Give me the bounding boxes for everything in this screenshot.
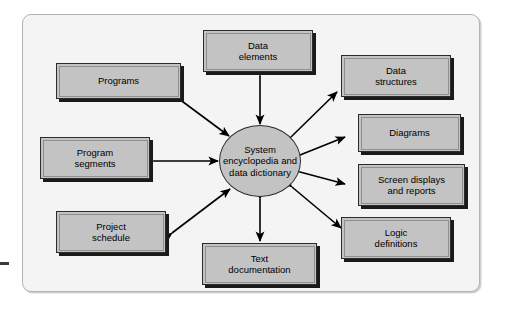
- node-logic-definitions-inner: Logic definitions: [344, 220, 449, 257]
- node-programs[interactable]: Programs: [56, 63, 181, 99]
- node-data-structures[interactable]: Data structures: [341, 55, 451, 97]
- node-program-segments-label-line1: Program: [74, 147, 115, 158]
- node-diagrams-label: Diagrams: [389, 127, 430, 138]
- crop-edge-mark: [0, 262, 9, 265]
- node-logic-definitions-label-line1: Logic: [375, 227, 418, 238]
- node-program-segments-inner: Program segments: [43, 140, 148, 177]
- node-data-structures-inner: Data structures: [344, 58, 449, 95]
- diagram-canvas: Programs Program segments Project schedu…: [0, 0, 505, 312]
- connector-screen-displays: [300, 172, 345, 184]
- connector-diagrams: [300, 137, 345, 155]
- connector-data-structures: [291, 92, 337, 137]
- node-data-elements[interactable]: Data elements: [203, 30, 313, 72]
- node-logic-definitions-label-line2: definitions: [375, 238, 418, 249]
- node-data-structures-label-line1: Data: [375, 65, 417, 76]
- node-text-documentation-inner: Text documentation: [205, 246, 315, 283]
- node-data-elements-label-line2: elements: [239, 51, 278, 62]
- node-programs-label: Programs: [98, 75, 139, 86]
- node-project-schedule-label-line2: schedule: [92, 232, 130, 243]
- hub-label-line4: dictionary: [250, 167, 291, 178]
- hub-label-line2: encyclopedia: [223, 155, 278, 166]
- node-screen-displays[interactable]: Screen displays and reports: [358, 164, 465, 206]
- node-text-documentation[interactable]: Text documentation: [202, 243, 317, 285]
- hub-label-line1: System: [244, 144, 276, 155]
- node-program-segments[interactable]: Program segments: [40, 137, 150, 179]
- connector-project-schedule: [172, 189, 230, 233]
- hub-system-encyclopedia[interactable]: System encyclopedia and data dictionary: [219, 125, 301, 197]
- node-data-elements-inner: Data elements: [206, 33, 311, 70]
- node-logic-definitions[interactable]: Logic definitions: [341, 217, 451, 259]
- node-diagrams-inner: Diagrams: [361, 117, 459, 150]
- node-text-documentation-label-line1: Text: [228, 253, 290, 264]
- node-project-schedule[interactable]: Project schedule: [56, 211, 166, 253]
- connector-programs: [171, 93, 229, 136]
- node-screen-displays-label-line1: Screen displays: [378, 174, 445, 185]
- node-text-documentation-label-line2: documentation: [228, 264, 290, 275]
- node-screen-displays-label-line2: and reports: [378, 185, 445, 196]
- node-diagrams[interactable]: Diagrams: [358, 114, 461, 152]
- node-program-segments-label-line2: segments: [74, 158, 115, 169]
- connector-logic-definitions: [292, 187, 341, 228]
- node-data-elements-label-line1: Data: [239, 40, 278, 51]
- node-programs-inner: Programs: [59, 66, 179, 97]
- node-project-schedule-label-line1: Project: [92, 221, 130, 232]
- node-data-structures-label-line2: structures: [375, 76, 417, 87]
- node-screen-displays-inner: Screen displays and reports: [361, 167, 463, 204]
- node-project-schedule-inner: Project schedule: [59, 214, 164, 251]
